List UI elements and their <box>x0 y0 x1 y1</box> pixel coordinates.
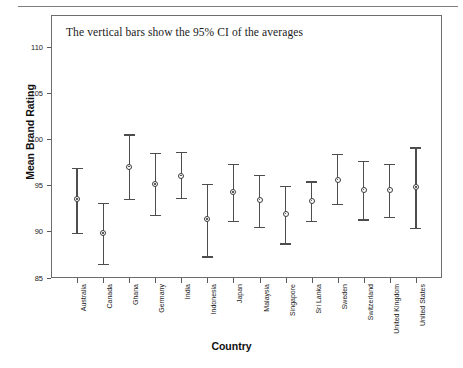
y-axis-tick-label: 85 <box>11 273 43 282</box>
x-axis-tick-label: Malaysia <box>263 284 270 312</box>
error-bar-cap-lower <box>410 228 421 229</box>
error-bar-cap-lower <box>358 219 369 220</box>
error-bar-cap-upper <box>176 152 187 153</box>
y-axis-tick-mark <box>47 231 51 232</box>
x-axis-tick-mark <box>207 278 208 283</box>
header-divider <box>18 6 458 7</box>
error-bar-cap-upper <box>228 164 239 165</box>
y-axis-tick-mark <box>47 139 51 140</box>
x-axis-tick-label: India <box>184 284 191 299</box>
error-bar-cap-upper <box>72 168 83 169</box>
error-bar-cap-upper <box>202 184 213 185</box>
x-axis-title: Country <box>0 340 463 352</box>
error-bar-cap-upper <box>150 153 161 154</box>
x-axis-tick-label: United States <box>419 284 426 326</box>
error-bar-cap-upper <box>358 161 369 162</box>
error-bar-cap-lower <box>306 221 317 222</box>
x-axis-tick-label: Indonesia <box>210 284 217 314</box>
x-axis-tick-mark <box>312 278 313 283</box>
error-bar-cap-lower <box>228 221 239 222</box>
x-axis-tick-label: Canada <box>106 284 113 309</box>
error-bar-cap-lower <box>98 264 109 265</box>
x-axis-tick-mark <box>103 278 104 283</box>
error-bar-cap-lower <box>72 233 83 234</box>
x-axis-tick-mark <box>260 278 261 283</box>
error-bar-cap-upper <box>306 181 317 182</box>
data-point-marker <box>126 164 132 170</box>
x-axis-tick-mark <box>77 278 78 283</box>
error-bar-chart-figure: The vertical bars show the 95% CI of the… <box>0 0 463 368</box>
error-bar-cap-upper <box>280 186 291 187</box>
data-point-marker <box>309 198 315 204</box>
error-bar-cap-lower <box>150 215 161 216</box>
y-axis-tick-mark <box>47 278 51 279</box>
error-bar-cap-upper <box>124 134 135 135</box>
y-axis-tick-label: 110 <box>11 42 43 51</box>
x-axis-tick-label: Sri Lanka <box>315 284 322 314</box>
y-axis-tick-mark <box>47 185 51 186</box>
error-bar-cap-upper <box>254 175 265 176</box>
x-axis-tick-mark <box>364 278 365 283</box>
x-axis-tick-label: Switzerland <box>367 284 374 320</box>
error-bar-cap-lower <box>254 227 265 228</box>
x-axis-tick-label: United Kingdom <box>393 284 400 334</box>
data-point-marker <box>335 177 341 183</box>
data-point-marker <box>74 196 80 202</box>
x-axis-tick-mark <box>416 278 417 283</box>
y-axis-tick-label: 100 <box>11 134 43 143</box>
error-bar-cap-lower <box>332 204 343 205</box>
x-axis-tick-label: Japan <box>236 284 243 303</box>
x-axis-tick-mark <box>233 278 234 283</box>
y-axis-tick-mark <box>47 47 51 48</box>
x-axis-tick-mark <box>155 278 156 283</box>
x-axis-tick-mark <box>286 278 287 283</box>
error-bar-cap-lower <box>202 256 213 257</box>
x-axis-tick-label: Germany <box>158 284 165 313</box>
data-point-marker <box>257 197 263 203</box>
x-axis-tick-mark <box>181 278 182 283</box>
error-bar-cap-lower <box>280 243 291 244</box>
x-axis-tick-label: Ghana <box>132 284 139 305</box>
y-axis-tick-label: 95 <box>11 181 43 190</box>
y-axis-tick-label: 105 <box>11 88 43 97</box>
error-bar-cap-lower <box>384 217 395 218</box>
y-axis-tick-mark <box>47 93 51 94</box>
plot-area-frame <box>51 15 442 278</box>
y-axis-tick-label: 90 <box>11 227 43 236</box>
data-point-marker <box>413 184 419 190</box>
data-point-marker <box>387 187 393 193</box>
error-bar-cap-upper <box>410 147 421 148</box>
error-bar-cap-lower <box>124 199 135 200</box>
x-axis-tick-label: Singapore <box>289 284 296 316</box>
x-axis-tick-mark <box>129 278 130 283</box>
error-bar-cap-lower <box>176 198 187 199</box>
error-bar-cap-upper <box>98 203 109 204</box>
x-axis-tick-label: Sweden <box>341 284 348 309</box>
x-axis-tick-label: Australia <box>80 284 87 311</box>
error-bar-cap-upper <box>332 154 343 155</box>
x-axis-tick-mark <box>390 278 391 283</box>
error-bar-cap-upper <box>384 164 395 165</box>
chart-annotation: The vertical bars show the 95% CI of the… <box>66 26 303 38</box>
x-axis-tick-mark <box>338 278 339 283</box>
data-point-marker <box>361 187 367 193</box>
data-point-marker <box>283 211 289 217</box>
